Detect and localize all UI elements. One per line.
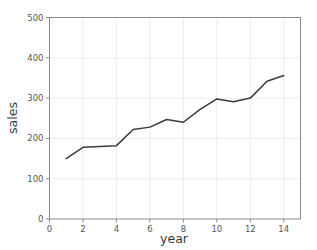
x-tick-label: 0 (47, 224, 52, 234)
y-tick-label: 200 (27, 133, 43, 143)
y-tick-label: 0 (38, 214, 43, 224)
x-tick-label: 6 (147, 224, 152, 234)
chart-figure: 02468101214 0100200300400500 year sales (0, 0, 317, 250)
x-axis-title: year (160, 231, 189, 246)
y-tick-label: 100 (27, 174, 43, 184)
figure-background (0, 0, 317, 250)
y-tick-label: 300 (27, 93, 43, 103)
x-tick-label: 4 (114, 224, 119, 234)
line-chart: 02468101214 0100200300400500 year sales (0, 0, 317, 250)
y-tick-label: 400 (27, 53, 43, 63)
y-axis-title: sales (5, 102, 20, 134)
x-tick-label: 10 (211, 224, 222, 234)
x-tick-label: 2 (80, 224, 85, 234)
x-tick-label: 14 (278, 224, 289, 234)
x-tick-label: 12 (245, 224, 256, 234)
y-tick-label: 500 (27, 13, 43, 23)
